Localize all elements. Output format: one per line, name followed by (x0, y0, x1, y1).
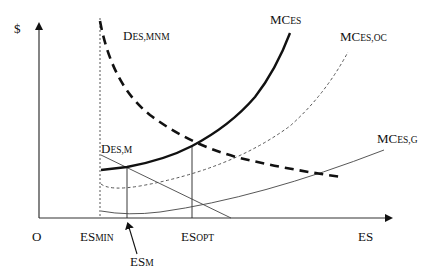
y-axis-label: $ (14, 21, 21, 36)
curve-mc-es-oc (101, 52, 348, 188)
label-mc-es-g: MCES,G (377, 131, 418, 146)
x-axis-label: ES (358, 229, 373, 244)
label-mc-es: MCES (270, 12, 301, 27)
label-es-min: ESMIN (80, 229, 114, 244)
curve-d-es-mnm (100, 21, 342, 177)
origin-label: O (32, 229, 41, 244)
es-m-pointer-arrow (128, 224, 137, 254)
economic-diagram: $ ES O ESMIN ESOPT ESM MCES MCES,OC MCES… (0, 0, 432, 280)
label-es-m: ESM (130, 254, 154, 269)
label-d-es-mnm: DES,MNM (123, 28, 170, 43)
label-es-opt: ESOPT (181, 229, 214, 244)
label-mc-es-oc: MCES,OC (340, 29, 387, 44)
label-d-es-m: DES,M (101, 141, 133, 156)
curve-d-es-m (101, 155, 231, 218)
